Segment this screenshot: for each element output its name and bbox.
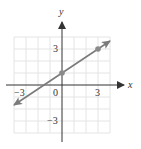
point-0-1 — [59, 70, 65, 76]
x-tick-3: 3 — [95, 87, 100, 98]
point-3-3 — [95, 46, 101, 52]
coordinate-plane: x y −3 0 3 3 −3 — [0, 0, 141, 149]
x-tick-neg3: −3 — [14, 87, 25, 98]
y-axis-label: y — [58, 6, 64, 17]
origin-label: 0 — [53, 87, 58, 98]
x-axis-label: x — [127, 79, 133, 90]
y-tick-3: 3 — [53, 43, 58, 54]
y-tick-neg3: −3 — [47, 115, 58, 126]
